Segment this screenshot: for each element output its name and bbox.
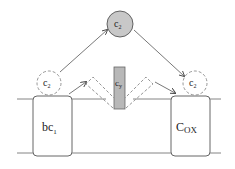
c2-right-label: c2 xyxy=(189,77,196,89)
electron-transfer-diagram: bc1 COX cy c2 c2 c2 xyxy=(0,0,235,169)
cox-complex: COX xyxy=(171,96,210,156)
cy-left-position xyxy=(86,77,117,108)
cy-right-position xyxy=(122,77,153,108)
arrow-c2-soluble-to-c2-right xyxy=(134,30,184,76)
c2-left-label: c2 xyxy=(43,77,50,89)
c2-right-node: c2 xyxy=(183,71,207,95)
cy-node: cy xyxy=(114,67,125,109)
c2-soluble-node: c2 xyxy=(107,11,133,37)
bc1-complex: bc1 xyxy=(33,96,72,156)
arrow-bc1-to-cy xyxy=(69,82,86,94)
arrow-c2-left-to-c2-soluble xyxy=(60,30,107,72)
arrow-cy-to-cox xyxy=(155,82,175,93)
c2-left-node: c2 xyxy=(37,71,61,95)
